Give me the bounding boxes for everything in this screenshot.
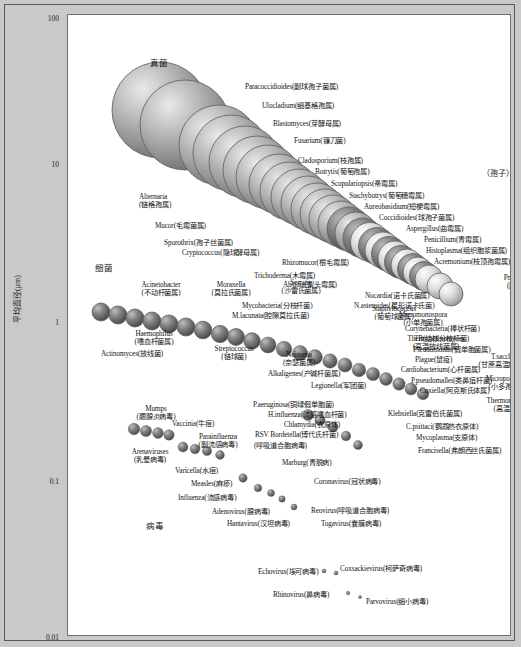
organism-label-line1: Aureobasidium(短梗霉属) xyxy=(364,203,439,211)
data-point-sphere xyxy=(260,162,318,220)
organism-label: H.influenza(流感嗜血杆菌) xyxy=(268,411,347,419)
organism-label-line2: (沙雷氏菌属) xyxy=(281,287,320,295)
data-point-sphere xyxy=(354,441,363,450)
data-point-sphere xyxy=(271,169,327,225)
organism-label-line1: Klebsiella(克雷伯氏菌属) xyxy=(388,410,462,418)
organism-label-line2: (奈瑟菌属) xyxy=(283,359,315,367)
data-point-sphere xyxy=(427,273,453,299)
data-point-sphere xyxy=(398,254,429,285)
data-point-sphere xyxy=(309,195,357,243)
data-point-sphere xyxy=(153,428,164,439)
data-point-sphere xyxy=(322,569,326,573)
organism-label: Coccidioides(球孢子菌属) xyxy=(379,214,454,222)
data-point-sphere xyxy=(385,246,418,279)
organism-label-line2: (莫拉氏菌属) xyxy=(211,289,250,297)
organism-label: Rhinovirus(鼻病毒) xyxy=(273,591,329,599)
organism-label-line1: Legionella(军团菌) xyxy=(311,382,366,390)
organism-label-line1: Actinomyces(放线菌) xyxy=(101,350,163,358)
organism-label-line1: Neisseria xyxy=(286,351,312,359)
data-point-sphere xyxy=(327,207,371,251)
organism-label: Coxiella(阿克斯氏体属) xyxy=(420,387,490,395)
data-point-sphere xyxy=(343,218,383,258)
data-point-sphere xyxy=(335,212,377,254)
organism-label-line1: H.influenza(流感嗜血杆菌) xyxy=(268,411,347,419)
organism-label: Reovirus(呼吸道合胞病毒) xyxy=(311,507,389,515)
organism-label-line1: Coxsackievirus(柯萨奇病毒) xyxy=(340,565,422,573)
data-point-sphere xyxy=(126,309,144,327)
organism-label: Plague(鼠疫) xyxy=(415,356,452,364)
data-point-sphere xyxy=(415,265,443,293)
data-point-sphere xyxy=(378,241,412,275)
organism-label-line1: Marburg(青脱病) xyxy=(282,459,332,467)
organism-label-line1: Mumps xyxy=(145,405,166,413)
organism-label: Actinomyces(放线菌) xyxy=(101,350,163,358)
organism-label: Parvovirus(细小病毒) xyxy=(366,598,428,606)
organism-label-line1: Togavirus(囊膜病毒) xyxy=(321,520,381,528)
organism-label: Neisseria(奈瑟菌属) xyxy=(283,351,315,368)
organism-label-line2: (乳晕病毒) xyxy=(132,456,169,464)
organism-label-line2: (葡萄球菌属) xyxy=(372,313,416,321)
data-point-sphere xyxy=(109,306,127,324)
data-point-sphere xyxy=(341,431,351,441)
organism-label-line2: (甘蔗高温放线菌) xyxy=(479,361,511,369)
data-point-sphere xyxy=(323,354,337,368)
organism-label-line1: Coccidioides(球孢子菌属) xyxy=(379,214,454,222)
organism-label-line1: T.saccharl xyxy=(491,353,511,361)
organism-label-line1: Influenza(流感病毒) xyxy=(178,494,236,502)
organism-label: Haemophilus(嗜血杆菌属) xyxy=(134,330,173,347)
data-point-sphere xyxy=(365,232,401,268)
organism-label: Serratia(沙雷氏菌属) xyxy=(281,279,320,296)
y-axis-tick: 100 xyxy=(48,15,59,23)
data-point-sphere xyxy=(403,257,433,287)
organism-label: P.aeruginosa(铜绿假单胞菌) xyxy=(253,401,334,409)
organism-label: Streptococcus(链球菌) xyxy=(214,345,253,362)
organism-label: Scopulariopsis(帚霉属) xyxy=(331,180,397,188)
organism-label-line1: RSV Bordetella(博代氏杆菌) xyxy=(255,431,338,439)
organism-label: Measles(麻疹) xyxy=(191,480,232,488)
organism-label-line1: Pseudomonas(假单胞菌属) xyxy=(413,346,491,354)
organism-label-line1: Fusarium(镰刀菌) xyxy=(294,137,346,145)
organism-label: Mycobacteria(分枝杆菌) xyxy=(242,302,313,310)
organism-label: Nocardia(诺卡氏菌属) xyxy=(365,292,430,300)
organism-label-line1: Adenovirus(腺病毒) xyxy=(212,508,270,516)
organism-label: Paracoccidioides(副球孢子菌属) xyxy=(245,83,338,91)
organism-label: Coxsackievirus(柯萨奇病毒) xyxy=(340,565,422,573)
organism-label: Vaccinia(牛痘) xyxy=(172,420,214,428)
organism-label-line1: Coronavirus(冠状病毒) xyxy=(314,478,381,486)
organism-label: Pneumocystis(肺囊虫属) xyxy=(504,274,511,291)
data-point-sphere xyxy=(164,430,174,440)
organism-label-line1: Measles(麻疹) xyxy=(191,480,232,488)
organism-label: Blastomyces(芽酵母属) xyxy=(273,120,341,128)
organism-label: Mucor(毛霉菌属) xyxy=(155,222,206,230)
data-point-sphere xyxy=(140,425,151,436)
data-point-sphere xyxy=(366,367,379,380)
data-point-sphere xyxy=(178,442,188,452)
group-label-病毒: 病毒 xyxy=(146,519,164,531)
organism-label-line2: (腮腺炎病毒) xyxy=(136,413,175,421)
chart-frame: 平均直径(μm) 1001010.10.01 xyxy=(4,4,515,641)
organism-label: Histoplasma(组织胞浆菌属) xyxy=(426,247,507,255)
organism-label: Corynebacteria(棒状杆菌) xyxy=(405,325,480,333)
data-point-sphere xyxy=(177,318,195,336)
organism-label-line1: Arenaviruses xyxy=(132,448,169,456)
organism-label: Coronavirus(冠状病毒) xyxy=(314,478,381,486)
data-point-sphere xyxy=(291,504,297,510)
organism-label: Acremonium(枝顶孢霉属) xyxy=(434,258,510,266)
organism-label-line1: Chlamydia(衣原体) xyxy=(284,421,340,429)
organism-label: T.saccharl(甘蔗高温放线菌) xyxy=(479,353,511,370)
organism-label-line1: Cardiobacterium(心杆菌属) xyxy=(401,366,480,374)
organism-label-line1: Coxiella(阿克斯氏体属) xyxy=(420,387,490,395)
organism-label: Marburg(青脱病) xyxy=(282,459,332,467)
data-point-sphere xyxy=(254,484,262,492)
organism-label-line1: Histoplasma(组织胞浆菌属) xyxy=(426,247,507,255)
organism-label-line1: Rhinovirus(鼻病毒) xyxy=(273,591,329,599)
organism-label-line2: (副流感病毒) xyxy=(198,441,237,449)
organism-label-line1: Mycobacteria(分枝杆菌) xyxy=(242,302,313,310)
chart-annotation: （孢子） xyxy=(482,167,511,178)
organism-label: Ulocladium(细基格孢属) xyxy=(262,102,334,110)
organism-label-line1: Parainfluenza xyxy=(199,433,237,441)
organism-label: Acinetobacter(不动杆菌属) xyxy=(141,281,180,298)
organism-label-line1: Moraxella xyxy=(217,281,246,289)
organism-label-line1: Alkaligenes(产碱杆菌属) xyxy=(268,370,340,378)
data-point-sphere xyxy=(193,115,269,191)
